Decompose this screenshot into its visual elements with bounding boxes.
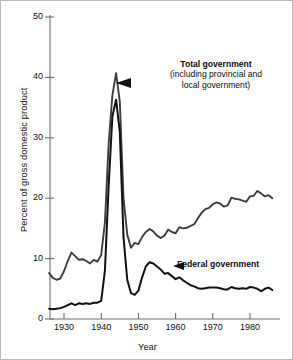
y-tick-label: 50: [25, 11, 43, 21]
annotation-total-government-title: Total government: [140, 59, 292, 69]
series-line-federal-government: [49, 100, 272, 310]
annotation-total-government-subtitle-2: local government): [140, 80, 292, 90]
x-tick-label: 1970: [199, 322, 227, 332]
annotation-pointers: [116, 78, 184, 270]
y-tick-label: 0: [25, 313, 43, 323]
x-axis-label: Year: [1, 342, 293, 352]
y-tick-label: 40: [25, 71, 43, 81]
x-tick-label: 1960: [162, 322, 190, 332]
x-tick-label: 1950: [124, 322, 152, 332]
x-tick-label: 1930: [50, 322, 78, 332]
x-tick-label: 1980: [236, 322, 264, 332]
chart-figure: Percent of gross domestic product Year T…: [0, 0, 293, 360]
x-tick-label: 1940: [87, 322, 115, 332]
y-tick-label: 30: [25, 132, 43, 142]
x-axis-ticks: [64, 313, 250, 319]
data-series-group: [49, 73, 272, 309]
chart-plot-area: [1, 1, 293, 360]
annotation-total-government-subtitle-1: (including provincial and: [140, 69, 292, 79]
annotation-federal-government: Federal government: [177, 259, 259, 269]
series-line-total-government: [49, 73, 272, 280]
y-axis-label: Percent of gross domestic product: [19, 92, 29, 232]
y-tick-label: 20: [25, 192, 43, 202]
annotation-total-government: Total government (including provincial a…: [140, 59, 292, 90]
y-tick-label: 10: [25, 253, 43, 263]
